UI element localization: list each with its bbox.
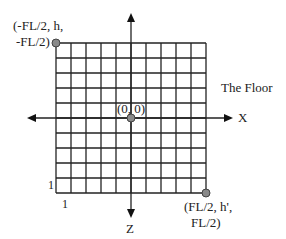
bottom-right-point-label-line1: (FL/2, h',	[184, 200, 232, 214]
x-unit-label: 1	[62, 197, 68, 211]
bottom-right-corner-point	[202, 189, 210, 197]
z-unit-label: 1	[48, 178, 54, 192]
bottom-right-point-label-line2: FL/2)	[191, 216, 221, 230]
x-axis-right-arrow-icon	[224, 114, 233, 122]
x-axis-label: X	[238, 111, 247, 125]
z-axis-down-arrow-icon	[127, 209, 135, 218]
x-axis-left-arrow-icon	[27, 114, 36, 122]
floor-title-label: The Floor	[221, 81, 273, 95]
origin-label: (0, 0)	[117, 102, 145, 116]
z-axis-label: Z	[126, 222, 134, 236]
top-left-point-label-line1: (-FL/2, h,	[13, 19, 63, 33]
z-axis-up-arrow-icon	[127, 13, 135, 22]
top-left-point-label-line2: -FL/2)	[16, 35, 50, 49]
top-left-corner-point	[52, 39, 60, 47]
